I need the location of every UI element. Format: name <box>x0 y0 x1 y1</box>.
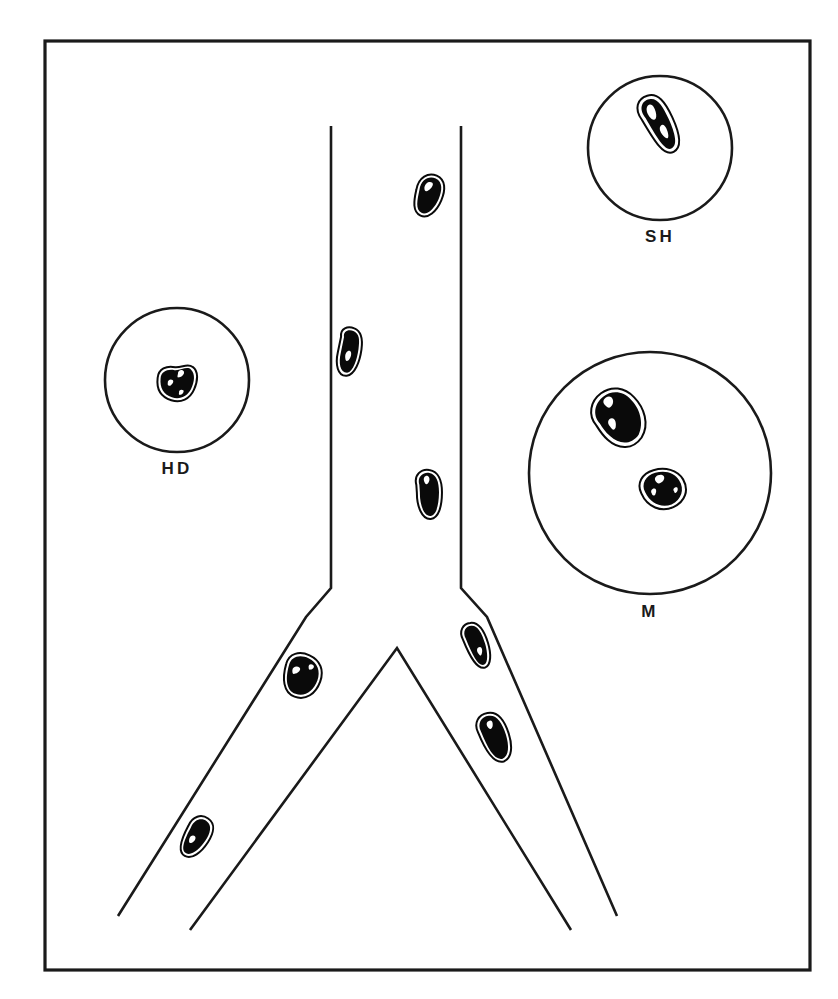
inset-labels: SH HD M <box>162 227 676 621</box>
particle-trunk-mid-right <box>415 469 444 520</box>
inset-particles <box>154 90 691 515</box>
inset-label-sh: SH <box>645 227 675 246</box>
particle-inset-m-2 <box>636 463 691 515</box>
figure-container: SH HD M <box>0 0 838 999</box>
particle-trunk-upper-right <box>409 171 448 221</box>
tube-wall-left-outer <box>118 126 331 916</box>
particle-trunk-left-wall <box>335 326 365 377</box>
bifurcation-figure: SH HD M <box>0 0 838 999</box>
particle-left-branch-upper <box>277 649 328 703</box>
inset-label-m: M <box>641 602 658 621</box>
particle-inset-sh <box>633 90 687 158</box>
particle-inset-m-1 <box>583 379 656 456</box>
tube-wall-crotch-inner <box>190 648 571 930</box>
inset-circle-m <box>529 352 771 594</box>
particle-inset-hd <box>154 359 200 404</box>
inset-label-hd: HD <box>162 459 193 478</box>
particle-right-branch-lower <box>472 708 517 766</box>
particle-left-branch-lower <box>175 812 218 863</box>
